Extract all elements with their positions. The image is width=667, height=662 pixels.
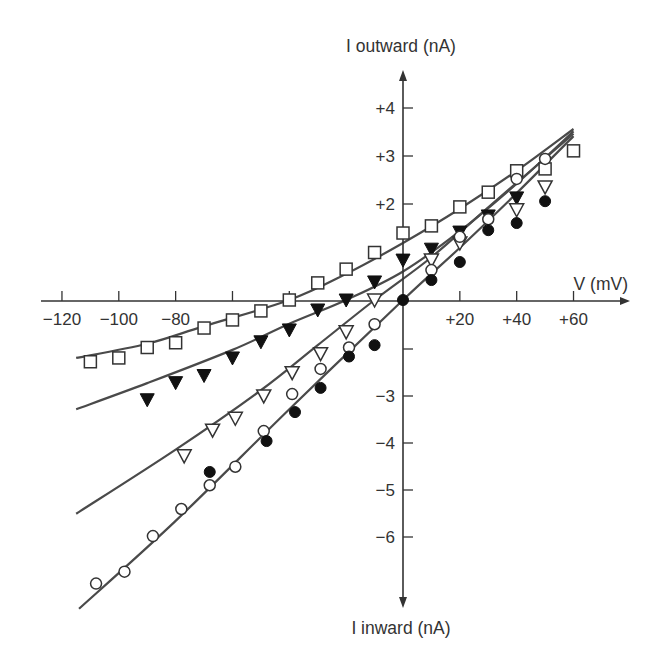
- fit-curve: [76, 134, 573, 514]
- open-triangle-marker-icon: [257, 390, 271, 403]
- y-ticks: +4+3+2−3−4−5−6: [376, 99, 413, 547]
- x-tick-label: −120: [43, 310, 81, 329]
- filled-triangle-marker-icon: [368, 276, 382, 289]
- square-marker-icon: [226, 314, 238, 326]
- open-circle-marker-icon: [91, 578, 102, 589]
- y-axis-arrow-down-icon: [399, 597, 407, 608]
- filled-triangle-marker-icon: [254, 336, 268, 349]
- open-circle-marker-icon: [369, 319, 380, 330]
- x-tick-label: +40: [502, 310, 531, 329]
- open-circle-marker-icon: [540, 153, 551, 164]
- x-tick-label: +60: [559, 310, 588, 329]
- open-circle-marker-icon: [204, 480, 215, 491]
- open-triangle-marker-icon: [285, 367, 299, 380]
- y-tick-label: −6: [376, 528, 395, 547]
- square-marker-icon: [141, 342, 153, 354]
- open-triangle-marker-icon: [177, 450, 191, 463]
- filled-circle-marker-icon: [398, 295, 409, 306]
- y-tick-label: +3: [376, 147, 395, 166]
- open-circle-marker-icon: [315, 363, 326, 374]
- open-circle-marker-icon: [511, 173, 522, 184]
- x-axis-arrow-icon: [620, 297, 630, 305]
- open-circle-marker-icon: [426, 265, 437, 276]
- fit-curve: [76, 129, 573, 358]
- open-triangle-marker-icon: [206, 424, 220, 437]
- square-marker-icon: [198, 322, 210, 334]
- filled-circle-marker-icon: [261, 436, 272, 447]
- open-triangle-marker-icon: [510, 204, 524, 217]
- y-tick-label: +2: [376, 195, 395, 214]
- square-marker-icon: [255, 305, 267, 317]
- x-tick-label: −80: [161, 310, 190, 329]
- square-marker-icon: [482, 186, 494, 198]
- open-triangle-marker-icon: [314, 348, 328, 361]
- square-marker-icon: [369, 247, 381, 259]
- y-tick-label: −3: [376, 387, 395, 406]
- y-tick-label: −5: [376, 481, 395, 500]
- series-triangle-down-filled: [140, 192, 523, 407]
- y-tick-label: +4: [376, 99, 395, 118]
- x-axis-title: V (mV): [574, 274, 628, 294]
- square-marker-icon: [340, 263, 352, 275]
- filled-circle-marker-icon: [204, 466, 215, 477]
- filled-triangle-marker-icon: [140, 394, 154, 407]
- filled-triangle-marker-icon: [396, 254, 410, 267]
- filled-circle-marker-icon: [454, 257, 465, 268]
- square-marker-icon: [283, 294, 295, 306]
- filled-triangle-marker-icon: [197, 370, 211, 383]
- square-marker-icon: [397, 227, 409, 239]
- x-tick-label: −100: [100, 310, 138, 329]
- open-circle-marker-icon: [454, 231, 465, 242]
- filled-circle-marker-icon: [511, 218, 522, 229]
- open-circle-marker-icon: [483, 214, 494, 225]
- open-triangle-marker-icon: [538, 181, 552, 194]
- axes: −120−100−80+20+40+60 +4+3+2−3−4−5−6: [41, 70, 630, 608]
- square-marker-icon: [113, 352, 125, 364]
- series-circle-open: [91, 153, 551, 589]
- filled-circle-marker-icon: [540, 196, 551, 207]
- filled-triangle-marker-icon: [225, 352, 239, 365]
- square-marker-icon: [312, 277, 324, 289]
- square-marker-icon: [425, 220, 437, 232]
- filled-triangle-marker-icon: [282, 324, 296, 337]
- x-tick-label: +20: [445, 310, 474, 329]
- filled-triangle-marker-icon: [169, 377, 183, 390]
- open-triangle-marker-icon: [339, 326, 353, 339]
- filled-circle-marker-icon: [483, 225, 494, 236]
- square-marker-icon: [454, 201, 466, 213]
- square-marker-icon: [170, 337, 182, 349]
- square-marker-icon: [568, 145, 580, 157]
- y-axis-arrow-up-icon: [399, 70, 407, 81]
- open-circle-marker-icon: [230, 461, 241, 472]
- filled-circle-marker-icon: [315, 382, 326, 393]
- y-axis-title-top: I outward (nA): [346, 36, 456, 56]
- filled-circle-marker-icon: [369, 340, 380, 351]
- open-circle-marker-icon: [287, 389, 298, 400]
- open-circle-marker-icon: [176, 504, 187, 515]
- filled-circle-marker-icon: [426, 275, 437, 286]
- y-tick-label: −4: [376, 434, 395, 453]
- open-circle-marker-icon: [119, 566, 130, 577]
- y-axis-title-bottom: I inward (nA): [351, 618, 450, 638]
- open-triangle-marker-icon: [228, 412, 242, 425]
- iv-curve-chart: −120−100−80+20+40+60 +4+3+2−3−4−5−6 I ou…: [0, 0, 667, 662]
- open-circle-marker-icon: [147, 531, 158, 542]
- square-marker-icon: [84, 356, 96, 368]
- filled-circle-marker-icon: [290, 407, 301, 418]
- open-circle-marker-icon: [258, 426, 269, 437]
- filled-circle-marker-icon: [344, 351, 355, 362]
